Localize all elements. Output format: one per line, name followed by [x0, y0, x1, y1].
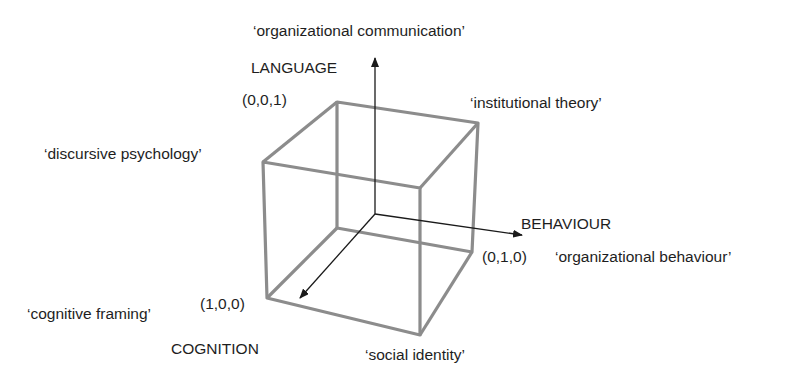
cognitive-framing-label: ‘cognitive framing’	[27, 306, 151, 322]
organizational-communication-label: ‘organizational communication’	[253, 23, 465, 39]
behaviour-axis	[375, 214, 522, 235]
cognition-coord-label: (1,0,0)	[200, 296, 245, 312]
language-coord-label: (0,0,1)	[242, 92, 287, 108]
organizational-behaviour-label: ‘organizational behaviour’	[555, 249, 731, 265]
social-identity-label: ‘social identity’	[365, 347, 465, 363]
cube-diagram	[0, 0, 812, 392]
institutional-theory-label: ‘institutional theory’	[470, 95, 602, 111]
language-axis-label: LANGUAGE	[251, 60, 337, 76]
discursive-psychology-label: ‘discursive psychology’	[44, 146, 202, 162]
behaviour-coord-label: (0,1,0)	[482, 249, 527, 265]
behaviour-axis-label: BEHAVIOUR	[521, 216, 611, 232]
cognition-axis-label: COGNITION	[171, 341, 259, 357]
